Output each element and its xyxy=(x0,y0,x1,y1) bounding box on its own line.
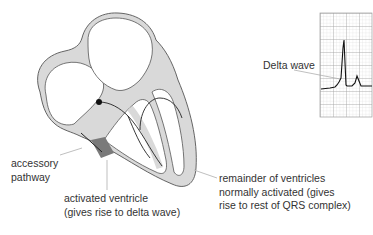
label-line: normally activated (gives xyxy=(219,186,351,200)
sa-av-node-dot xyxy=(96,99,102,105)
diagram-canvas: accessory pathway activated ventricle (g… xyxy=(0,0,373,235)
label-line: rise to rest of QRS complex) xyxy=(219,199,351,213)
heart-outline xyxy=(38,13,197,187)
label-line: activated ventricle xyxy=(64,192,180,206)
label-line: pathway xyxy=(11,171,58,185)
remainder-ventricles-label: remainder of ventricles normally activat… xyxy=(219,172,351,213)
label-line: accessory xyxy=(11,157,58,171)
label-line: remainder of ventricles xyxy=(219,172,351,186)
delta-wave-label: Delta wave xyxy=(263,59,315,73)
label-line: (gives rise to delta wave) xyxy=(64,206,180,220)
ecg-inset xyxy=(320,13,372,117)
activated-ventricle-label: activated ventricle (gives rise to delta… xyxy=(64,192,180,219)
accessory-pathway-label: accessory pathway xyxy=(11,157,58,184)
